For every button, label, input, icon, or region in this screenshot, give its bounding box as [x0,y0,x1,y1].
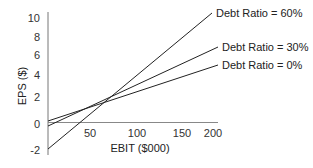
line-debt-0 [48,65,218,121]
x-axis-label: EBIT ($000) [110,142,169,154]
y-tick-0: 0 [34,118,40,130]
line-debt-30 [48,47,218,126]
x-tick-50: 50 [84,127,96,139]
eps-ebit-chart: 10 8 6 4 2 0 -2 50 100 150 200 EBIT ($00… [0,0,313,168]
y-axis-label: EPS ($) [16,67,28,106]
y-tick-2: 2 [34,91,40,103]
x-tick-200: 200 [204,127,222,139]
y-tick-10: 10 [28,12,40,24]
y-tick-8: 8 [34,31,40,43]
y-tick-4: 4 [34,69,40,81]
x-tick-150: 150 [173,127,191,139]
x-tick-100: 100 [128,127,146,139]
y-tick-6: 6 [34,49,40,61]
label-debt-60: Debt Ratio = 60% [216,7,303,19]
label-debt-30: Debt Ratio = 30% [222,41,309,53]
label-debt-0: Debt Ratio = 0% [222,59,303,71]
y-tick-neg2: -2 [30,144,40,156]
